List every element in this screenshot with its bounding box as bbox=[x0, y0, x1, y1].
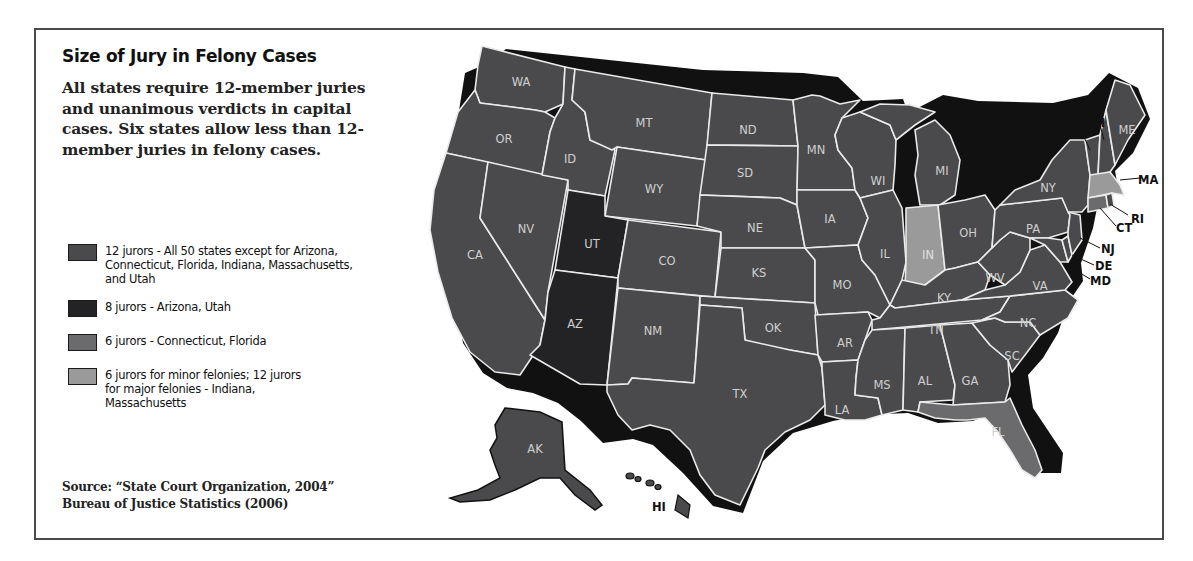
label-il: IL bbox=[880, 247, 890, 261]
label-wi: WI bbox=[871, 174, 886, 188]
label-de: DE bbox=[1095, 259, 1113, 273]
label-vt: VT bbox=[1066, 128, 1083, 142]
us-map: WA OR CA NV ID MT WY UT AZ CO NM ND SD N… bbox=[0, 0, 1193, 561]
label-ma: MA bbox=[1138, 173, 1158, 187]
state-ma[interactable] bbox=[1088, 172, 1124, 198]
label-ny: NY bbox=[1040, 181, 1057, 195]
label-ri: RI bbox=[1131, 212, 1144, 226]
label-nv: NV bbox=[518, 222, 535, 236]
label-ct: CT bbox=[1116, 221, 1132, 235]
state-ak[interactable] bbox=[450, 408, 602, 510]
label-ut: UT bbox=[584, 237, 600, 251]
label-tn: TN bbox=[927, 323, 944, 337]
label-tx: TX bbox=[732, 387, 748, 401]
label-fl: FL bbox=[991, 425, 1005, 439]
label-mo: MO bbox=[833, 278, 852, 292]
label-nm: NM bbox=[644, 324, 663, 338]
label-ia: IA bbox=[824, 212, 835, 226]
label-mi: MI bbox=[935, 164, 948, 178]
label-sc: SC bbox=[1004, 349, 1019, 363]
label-pa: PA bbox=[1026, 222, 1040, 236]
label-nj: NJ bbox=[1101, 242, 1115, 256]
label-ms: MS bbox=[873, 378, 890, 392]
state-nd[interactable] bbox=[707, 93, 798, 146]
label-ga: GA bbox=[962, 374, 979, 388]
state-ct[interactable] bbox=[1088, 195, 1108, 212]
label-co: CO bbox=[658, 254, 675, 268]
label-az: AZ bbox=[567, 317, 583, 331]
label-ar: AR bbox=[837, 336, 853, 350]
label-me: ME bbox=[1118, 123, 1135, 137]
label-al: AL bbox=[918, 374, 933, 388]
label-wv: WV bbox=[985, 271, 1004, 285]
label-in: IN bbox=[922, 248, 934, 262]
label-ok: OK bbox=[765, 321, 782, 335]
label-ca: CA bbox=[467, 248, 483, 262]
label-sd: SD bbox=[737, 166, 753, 180]
label-la: LA bbox=[835, 403, 850, 417]
label-id: ID bbox=[564, 152, 576, 166]
label-nc: NC bbox=[1020, 316, 1037, 330]
label-wa: WA bbox=[512, 75, 531, 89]
label-oh: OH bbox=[959, 226, 977, 240]
label-nh: NH bbox=[1086, 116, 1105, 130]
label-mt: MT bbox=[636, 116, 654, 130]
label-ky: KY bbox=[937, 291, 952, 305]
label-ak: AK bbox=[527, 442, 543, 456]
label-mn: MN bbox=[807, 143, 826, 157]
label-nd: ND bbox=[739, 123, 757, 137]
label-ne: NE bbox=[747, 221, 763, 235]
label-wy: WY bbox=[645, 182, 664, 196]
label-or: OR bbox=[495, 132, 512, 146]
label-va: VA bbox=[1033, 279, 1048, 293]
label-ks: KS bbox=[752, 266, 767, 280]
label-hi: HI bbox=[652, 500, 666, 514]
label-md: MD bbox=[1090, 274, 1111, 288]
